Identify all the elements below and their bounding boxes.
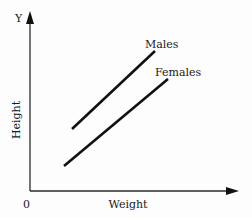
females-label: Females xyxy=(155,66,202,79)
y-axis-arrow-icon xyxy=(26,11,34,24)
weight-height-diagram: Y 0 Weight Height Males Females xyxy=(0,0,252,218)
males-label: Males xyxy=(145,38,179,51)
x-axis-label: Weight xyxy=(109,198,149,211)
y-axis-letter: Y xyxy=(14,12,23,25)
males-line xyxy=(72,51,155,129)
y-axis-label: Height xyxy=(10,100,23,139)
origin-label: 0 xyxy=(23,198,30,211)
x-axis-arrow-icon xyxy=(226,187,239,195)
